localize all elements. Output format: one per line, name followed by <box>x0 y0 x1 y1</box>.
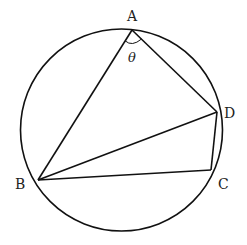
label-a: A <box>126 8 138 24</box>
angle-arc-a <box>125 39 141 43</box>
segment-bd <box>38 112 217 180</box>
segment-ab <box>38 30 132 180</box>
segment-cd <box>211 112 217 170</box>
circumcircle <box>21 29 223 231</box>
segment-bc <box>38 170 211 180</box>
label-c: C <box>218 176 229 192</box>
label-b: B <box>15 176 25 192</box>
label-d: D <box>224 105 235 121</box>
geometry-diagram: A B C D θ <box>0 0 247 245</box>
label-theta: θ <box>128 50 136 65</box>
